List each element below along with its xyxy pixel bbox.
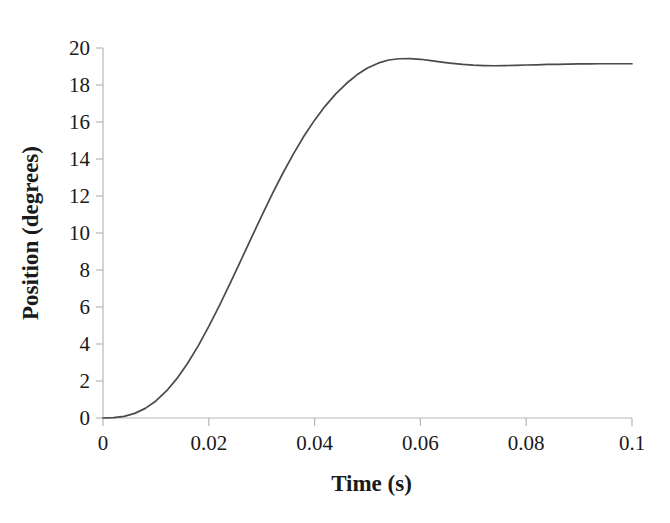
x-axis-title: Time (s) — [331, 471, 412, 496]
x-tick-label: 0.06 — [402, 431, 439, 455]
series-line-position-response — [103, 59, 632, 418]
y-tick-label: 10 — [69, 221, 90, 245]
y-tick-label: 0 — [80, 406, 91, 430]
y-tick-label: 12 — [69, 184, 90, 208]
y-tick-label: 8 — [80, 258, 91, 282]
y-tick-label: 14 — [69, 147, 91, 171]
x-tick-label: 0.02 — [190, 431, 227, 455]
y-tick-label: 16 — [69, 110, 90, 134]
y-axis-title: Position (degrees) — [18, 146, 43, 320]
position-vs-time-line-chart: 0246810121416182000.020.040.060.080.1Tim… — [0, 0, 670, 523]
y-tick-label: 6 — [80, 295, 91, 319]
x-tick-label: 0.04 — [296, 431, 333, 455]
x-tick-label: 0.1 — [619, 431, 645, 455]
y-tick-label: 4 — [80, 332, 91, 356]
x-tick-label: 0 — [98, 431, 109, 455]
y-tick-label: 2 — [80, 369, 91, 393]
x-tick-label: 0.08 — [508, 431, 545, 455]
chart-figure: 0246810121416182000.020.040.060.080.1Tim… — [0, 0, 670, 523]
y-tick-label: 20 — [69, 36, 90, 60]
y-tick-label: 18 — [69, 73, 90, 97]
